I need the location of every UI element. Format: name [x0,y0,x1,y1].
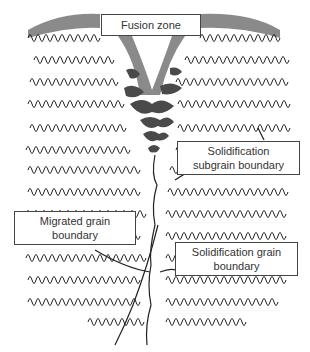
fusion-core [124,68,182,153]
label-solid-grain-line2: boundary [214,259,260,273]
label-subgrain-line2: subgrain boundary [193,158,284,172]
label-migrated-line2: boundary [52,228,98,242]
weld-grain-diagram [0,0,310,352]
label-migrated-line1: Migrated grain [40,214,110,228]
label-fusion-zone: Fusion zone [101,14,201,36]
label-fusion-zone-text: Fusion zone [121,18,181,32]
label-solidification-subgrain-boundary: Solidification subgrain boundary [177,141,300,175]
label-solid-grain-line1: Solidification grain [192,245,281,259]
label-subgrain-line1: Solidification [208,144,270,158]
fusion-zone-top-band-right [200,14,280,38]
label-migrated-grain-boundary: Migrated grain boundary [14,211,136,245]
label-solidification-grain-boundary: Solidification grain boundary [175,242,298,276]
